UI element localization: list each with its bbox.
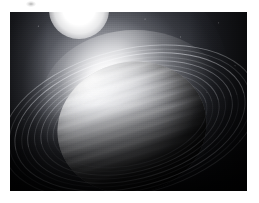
- film-grain: [10, 12, 247, 191]
- page-canvas: [0, 0, 259, 203]
- space-art-image: [10, 12, 247, 191]
- scan-artifact-mark: [26, 1, 36, 7]
